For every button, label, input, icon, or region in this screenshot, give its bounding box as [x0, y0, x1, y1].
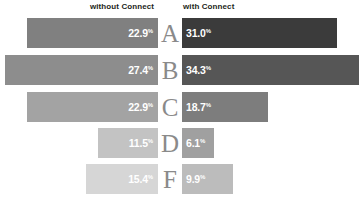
bar-right-a: 31.0% — [182, 18, 337, 48]
chart-row-f: 15.4% F 9.9% — [0, 164, 359, 194]
bar-left-f: 15.4% — [86, 164, 158, 194]
bar-left-value-d: 11.5% — [129, 137, 153, 149]
bar-right-value-d: 6.1% — [186, 137, 205, 149]
bar-right-b: 34.3% — [182, 55, 359, 85]
bar-left-value-a: 22.9% — [128, 27, 153, 39]
bar-left-d: 11.5% — [98, 128, 158, 158]
chart-row-c: 22.9% C 18.7% — [0, 92, 359, 122]
bar-left-value-b: 27.4% — [128, 64, 153, 76]
grade-letter-c: C — [158, 95, 182, 120]
grade-letter-a: A — [158, 21, 182, 46]
grade-letter-b: B — [158, 58, 182, 83]
bar-right-c: 18.7% — [182, 92, 268, 122]
bar-left-b: 27.4% — [5, 55, 158, 85]
bar-right-value-f: 9.9% — [186, 173, 205, 185]
column-header-with-connect: with Connect — [183, 2, 234, 11]
chart-row-d: 11.5% D 6.1% — [0, 128, 359, 158]
bar-left-c: 22.9% — [27, 92, 158, 122]
bar-right-f: 9.9% — [182, 164, 233, 194]
bar-left-value-f: 15.4% — [128, 173, 153, 185]
chart-row-a: 22.9% A 31.0% — [0, 18, 359, 48]
diverging-bar-chart: without Connect with Connect 22.9% A 31.… — [0, 0, 359, 204]
bar-right-value-a: 31.0% — [186, 27, 211, 39]
chart-row-b: 27.4% B 34.3% — [0, 55, 359, 85]
bar-right-d: 6.1% — [182, 128, 214, 158]
bar-right-value-c: 18.7% — [186, 101, 211, 113]
grade-letter-d: D — [158, 131, 182, 156]
column-header-without-connect: without Connect — [86, 2, 158, 11]
bar-left-value-c: 22.9% — [128, 101, 153, 113]
bar-left-a: 22.9% — [27, 18, 158, 48]
bar-right-value-b: 34.3% — [186, 64, 211, 76]
grade-letter-f: F — [158, 167, 182, 192]
